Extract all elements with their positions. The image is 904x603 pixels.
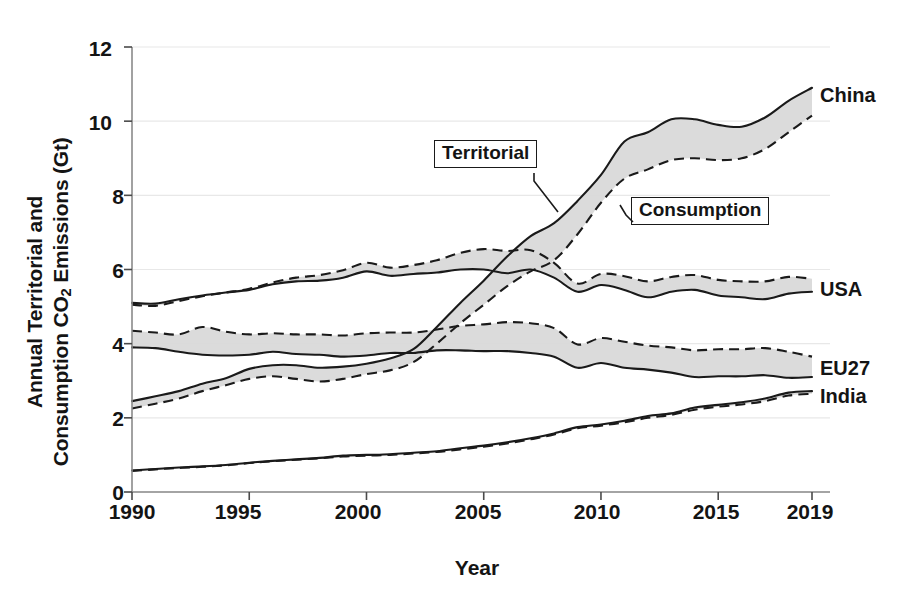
leader-line-consumption (620, 205, 633, 222)
plot-area (0, 0, 904, 603)
axis-lines (124, 47, 830, 500)
line-india-territorial (132, 391, 812, 470)
series-bands (132, 88, 812, 471)
leader-line-territorial (534, 173, 558, 212)
band-india (132, 391, 812, 471)
chart-figure: Annual Territorial and Consumption CO2 E… (0, 0, 904, 603)
